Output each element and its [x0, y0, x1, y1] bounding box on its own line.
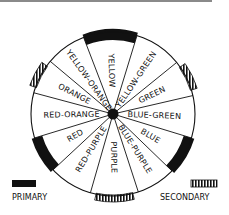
secondary-color-marker	[179, 64, 197, 91]
segment-label-yellow-green: YELLOW-GREEN	[113, 50, 158, 110]
primary-color-marker	[83, 29, 138, 45]
primary-legend-label: PRIMARY	[12, 193, 47, 202]
secondary-legend-swatch	[191, 180, 217, 187]
segment-label-purple: PURPLE	[109, 141, 119, 173]
secondary-legend-label: SECONDARY	[160, 193, 210, 202]
wheel-hub	[108, 109, 119, 120]
segment-label-red: RED	[66, 127, 86, 143]
primary-legend-swatch	[12, 180, 36, 187]
color-wheel-diagram: YELLOWYELLOW-GREENGREENBLUE-GREENBLUEBLU…	[0, 0, 229, 215]
segment-label-yellow: YELLOW	[106, 52, 116, 87]
segment-label-blue-green: BLUE-GREEN	[128, 110, 182, 121]
secondary-color-marker	[30, 62, 48, 87]
segment-label-orange: ORANGE	[57, 82, 93, 106]
color-wheel: YELLOWYELLOW-GREENGREENBLUE-GREENBLUEBLU…	[0, 0, 229, 215]
segment-label-red-orange: RED-ORANGE	[43, 110, 99, 120]
